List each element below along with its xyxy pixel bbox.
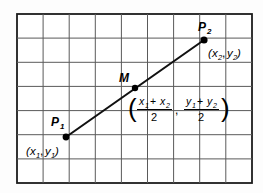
label-group-midpoint: M <box>119 71 130 85</box>
formula-open-paren: ( <box>128 93 137 123</box>
formula-close-paren: ) <box>221 93 230 123</box>
point-dot-p1 <box>63 134 70 141</box>
x-fraction-numerator-term2-subscript: 2 <box>165 102 170 109</box>
x-fraction-numerator-operator: + <box>150 95 156 107</box>
point-label-midpoint: M <box>119 71 130 85</box>
point-label-p1: P <box>51 115 60 129</box>
y-fraction-denominator: 2 <box>198 111 204 123</box>
y-fraction-numerator-term2: y <box>206 95 213 107</box>
y-fraction-numerator-term1: y <box>185 95 192 107</box>
figure-canvas: P 2 ( x 2 , y 2 ) M ( x 1 + x 2 2 <box>0 0 263 193</box>
y-fraction-numerator-term1-subscript: 1 <box>192 102 196 109</box>
coord-p2-comma: , <box>222 46 225 60</box>
y-fraction-numerator-operator: + <box>197 95 203 107</box>
x-fraction-numerator-term2: x <box>159 95 166 107</box>
coord-p1-comma: , <box>40 144 43 158</box>
point-label-p2-subscript: 2 <box>206 27 212 36</box>
point-label-p1-subscript: 1 <box>60 122 65 131</box>
point-dot-midpoint <box>132 85 138 91</box>
x-fraction-numerator-term1-subscript: 1 <box>145 102 149 109</box>
formula-separator-comma: , <box>175 103 178 117</box>
y-fraction-numerator-term2-subscript: 2 <box>212 102 217 109</box>
x-fraction-numerator-term1: x <box>138 95 145 107</box>
point-label-p2: P <box>198 20 207 34</box>
midpoint-formula-figure: P 2 ( x 2 , y 2 ) M ( x 1 + x 2 2 <box>0 0 263 193</box>
point-dot-p2 <box>200 36 207 43</box>
x-fraction-denominator: 2 <box>151 111 157 123</box>
